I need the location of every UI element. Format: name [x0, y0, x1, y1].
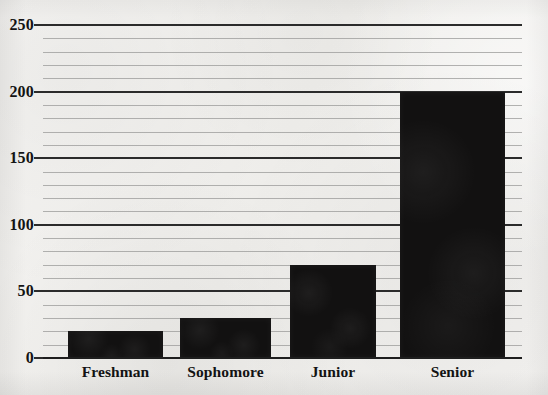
bar-sophomore [180, 318, 271, 358]
y-axis-tick-label: 50 [18, 282, 34, 300]
y-axis-tickmark [34, 290, 43, 292]
y-axis-tickmark [34, 157, 43, 159]
bar-freshman [68, 331, 163, 358]
bar-junior [290, 265, 376, 358]
y-axis-tick-label: 250 [9, 16, 34, 34]
y-axis-tickmark [34, 224, 43, 226]
gridline-minor [43, 65, 522, 66]
bar-senior [400, 92, 505, 358]
y-axis-tick-label: 150 [9, 149, 34, 167]
plot-area [43, 25, 522, 358]
gridline-major [43, 24, 522, 26]
x-axis-tick-label-senior: Senior [370, 363, 535, 381]
y-axis-label-group: 050100150200250 [0, 25, 34, 358]
y-axis-tick-label: 0 [26, 349, 34, 367]
y-axis-tickmark [34, 24, 43, 26]
y-axis-tickmark [34, 91, 43, 93]
y-axis-tickmark-group [34, 25, 43, 358]
gridline-minor [43, 38, 522, 39]
y-axis-tick-label: 200 [9, 83, 34, 101]
gridline-minor [43, 52, 522, 53]
y-axis-tickmark [34, 357, 43, 359]
bar-chart-figure: 050100150200250 FreshmanSophomoreJuniorS… [0, 0, 548, 395]
y-axis-tick-label: 100 [9, 216, 34, 234]
x-axis-baseline [43, 357, 522, 359]
gridline-minor [43, 78, 522, 79]
